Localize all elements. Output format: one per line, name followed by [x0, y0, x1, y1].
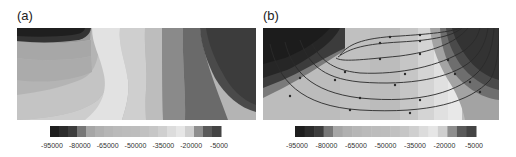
colorbar-swatch: [86, 126, 96, 137]
colorbar-swatch: [95, 126, 105, 137]
colorbar-a: [50, 126, 222, 137]
colorbar-swatch: [466, 126, 476, 137]
colorbar-tick-label: -80000: [316, 142, 338, 149]
colorbar-swatch: [447, 126, 457, 137]
colorbar-swatch: [428, 126, 438, 137]
colorbar-tick-label: -65000: [345, 142, 367, 149]
colorbar-swatch: [149, 126, 159, 137]
colorbar-swatch: [419, 126, 429, 137]
colorbar-swatch: [194, 126, 204, 137]
colorbar-swatch: [409, 126, 419, 137]
colorbar-swatch: [324, 126, 334, 137]
colorbar-tick-label: -95000: [41, 142, 63, 149]
colorbar-swatch: [203, 126, 213, 137]
contour-plot-b: [263, 28, 499, 120]
colorbar-tick-label: -5000: [210, 142, 228, 149]
colorbar-swatch: [295, 126, 305, 137]
colorbar-tick-label: -35000: [404, 142, 426, 149]
colorbar-swatch: [122, 126, 132, 137]
colorbar-swatch: [59, 126, 69, 137]
colorbar-tick-label: -20000: [434, 142, 456, 149]
colorbar-swatch: [176, 126, 186, 137]
colorbar-swatch: [50, 126, 60, 137]
colorbar-swatch: [333, 126, 343, 137]
colorbar-swatch: [68, 126, 78, 137]
colorbar-swatch: [158, 126, 168, 137]
colorbar-tick-label: -20000: [180, 142, 202, 149]
colorbar-swatch: [131, 126, 141, 137]
colorbar-swatch: [457, 126, 467, 137]
colorbar-swatch: [438, 126, 448, 137]
colorbar-tick-label: -5000: [465, 142, 483, 149]
colorbar-swatch: [343, 126, 353, 137]
colorbar-swatch: [352, 126, 362, 137]
colorbar-tick-label: -35000: [152, 142, 174, 149]
figure-canvas: [0, 0, 516, 157]
colorbar-swatch: [113, 126, 123, 137]
colorbar-tick-label: -80000: [69, 142, 91, 149]
colorbar-swatch: [400, 126, 410, 137]
colorbar-tick-label: -50000: [375, 142, 397, 149]
colorbar-swatch: [104, 126, 114, 137]
colorbar-swatch: [140, 126, 150, 137]
colorbar-swatch: [212, 126, 222, 137]
colorbar-tick-label: -50000: [125, 142, 147, 149]
colorbar-b: [295, 126, 477, 137]
colorbar-swatch: [167, 126, 177, 137]
colorbar-swatch: [185, 126, 195, 137]
colorbar-swatch: [362, 126, 372, 137]
colorbar-swatch: [390, 126, 400, 137]
contour-plot-a: [17, 28, 256, 120]
colorbar-swatch: [381, 126, 391, 137]
colorbar-swatch: [371, 126, 381, 137]
colorbar-tick-label: -65000: [97, 142, 119, 149]
colorbar-swatch: [77, 126, 87, 137]
colorbar-swatch: [305, 126, 315, 137]
colorbar-tick-label: -95000: [286, 142, 308, 149]
colorbar-swatch: [314, 126, 324, 137]
